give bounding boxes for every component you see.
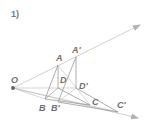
label-C: C bbox=[92, 98, 99, 107]
label-A-prime: A' bbox=[72, 46, 81, 55]
label-O: O bbox=[11, 76, 18, 85]
figure-number: 1) bbox=[11, 10, 19, 19]
label-D-prime: D' bbox=[79, 82, 88, 91]
label-C-prime: C' bbox=[117, 101, 126, 110]
upper-ray bbox=[13, 25, 140, 88]
point-O bbox=[11, 86, 15, 90]
homothety-figure: 1) O A A' D D' B B' C C' bbox=[0, 0, 144, 129]
label-B: B bbox=[39, 104, 46, 113]
line-O-B bbox=[13, 88, 45, 99]
label-A: A bbox=[56, 54, 63, 63]
label-D: D bbox=[60, 76, 67, 85]
label-B-prime: B' bbox=[51, 104, 60, 113]
